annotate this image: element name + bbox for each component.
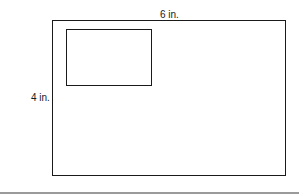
bottom-divider: [0, 192, 299, 194]
width-label: 6 in.: [160, 9, 179, 20]
height-label: 4 in.: [31, 92, 50, 103]
inner-rectangle: [66, 29, 152, 86]
